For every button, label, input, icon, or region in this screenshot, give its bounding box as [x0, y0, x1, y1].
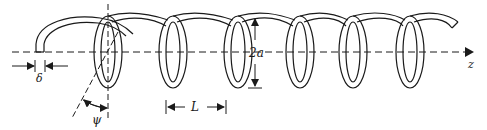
- psi-angle-indicator: [83, 100, 107, 108]
- diameter-label: 2a: [248, 46, 264, 60]
- helix-coil: [36, 13, 458, 88]
- helix-diagram: ψ δ 2a L z: [0, 0, 487, 130]
- pitch-label: L: [190, 100, 199, 114]
- psi-label: ψ: [92, 113, 102, 127]
- axis-arrow-icon: [465, 47, 474, 57]
- z-axis: [12, 47, 474, 57]
- pitch-angle-line: [72, 32, 118, 118]
- z-axis-label: z: [467, 58, 474, 71]
- delta-dimension: [12, 60, 68, 72]
- delta-label: δ: [36, 72, 43, 85]
